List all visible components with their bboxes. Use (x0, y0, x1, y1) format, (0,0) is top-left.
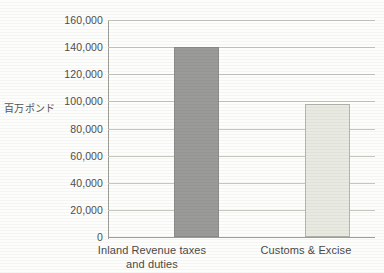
y-axis-tick-label: 60,000 (70, 150, 103, 162)
x-axis-spine (108, 237, 375, 238)
gridline (108, 20, 375, 21)
bar-0 (174, 47, 219, 237)
category-label-line-2: and duties (62, 257, 242, 271)
y-axis-tick-label: 120,000 (64, 68, 103, 80)
gridline (108, 47, 375, 48)
category-label-line-1: Inland Revenue taxes (98, 244, 206, 256)
y-axis-tick-label: 20,000 (70, 204, 103, 216)
y-axis-tick-label: 160,000 (64, 14, 103, 26)
x-axis-category-label: Inland Revenue taxes and duties (62, 243, 242, 271)
chart-page: 百万ポンド 020,00040,00060,00080,000100,00012… (0, 0, 384, 273)
y-axis-tick-label: 140,000 (64, 41, 103, 53)
category-label-line-1: Customs & Excise (261, 244, 352, 256)
x-axis-category-label: Customs & Excise (228, 243, 384, 257)
bar-1 (305, 104, 350, 237)
y-axis-tick-label: 80,000 (70, 123, 103, 135)
y-axis-tick-label: 0 (97, 231, 103, 243)
y-axis-title: 百万ポンド (4, 100, 66, 115)
chart-title-clipped (108, 0, 348, 4)
y-axis-tick-label: 40,000 (70, 177, 103, 189)
y-axis-tick-label: 100,000 (64, 95, 103, 107)
plot-area: 020,00040,00060,00080,000100,000120,0001… (108, 20, 375, 238)
y-axis-spine (108, 20, 109, 239)
gridline (108, 101, 375, 102)
gridline (108, 74, 375, 75)
